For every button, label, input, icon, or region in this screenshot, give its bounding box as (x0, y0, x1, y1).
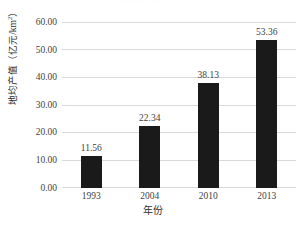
y-axis-title-main: 地均产值（亿元/km (8, 20, 18, 105)
y-axis-title-tail: ） (8, 7, 18, 17)
x-tick-label-2013: 2013 (239, 192, 295, 202)
bar-2013[interactable] (256, 40, 277, 188)
cropped-title-remnant: ——— —— (118, 0, 196, 2)
y-tick-label-50: 50.00 (11, 46, 57, 56)
bar-value-label-1993: 11.56 (63, 144, 119, 154)
y-tick-label-60: 60.00 (11, 18, 57, 28)
bar-1993[interactable] (81, 156, 102, 188)
y-tick-label-10: 10.00 (11, 156, 57, 166)
x-tick-label-1993: 1993 (63, 192, 119, 202)
x-tick-label-2004: 2004 (122, 192, 178, 202)
bar-value-label-2004: 22.34 (122, 114, 178, 124)
gridline-60 (62, 22, 296, 23)
y-tick-label-0: 0.00 (11, 184, 57, 194)
bar-value-label-2010: 38.13 (180, 71, 236, 81)
plot-area (62, 22, 296, 188)
y-tick-label-30: 30.00 (11, 101, 57, 111)
y-tick-label-20: 20.00 (11, 128, 57, 138)
y-tick-label-40: 40.00 (11, 73, 57, 83)
x-axis-title: 年份 (0, 206, 306, 216)
x-tick-label-2010: 2010 (180, 192, 236, 202)
chart-figure: ——— —— 地均产值（亿元/km2） 60.00 50.00 40.00 30… (0, 0, 306, 229)
bar-2004[interactable] (139, 126, 160, 188)
bar-value-label-2013: 53.36 (239, 28, 295, 38)
bar-2010[interactable] (198, 83, 219, 188)
